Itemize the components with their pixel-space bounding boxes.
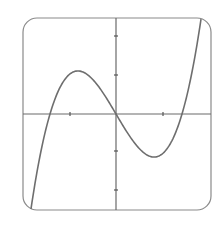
cubic-function-plot	[0, 0, 223, 232]
